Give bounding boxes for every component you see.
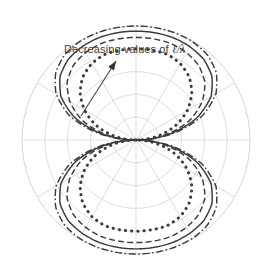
annotation-symbol: ℓ/λ [172,43,185,55]
annotation-prefix: Decreasing values of [64,43,172,55]
grid-spoke-30deg [136,83,235,140]
grid-spoke-120deg [79,41,136,140]
polar-plot-canvas [0,0,267,274]
grid-spoke-240deg [79,140,136,239]
annotation-label: Decreasing values of ℓ/λ [64,43,185,55]
grid-spoke-210deg [37,140,136,197]
arrow-head [108,61,116,70]
polar-radiation-pattern-figure: Decreasing values of ℓ/λ [0,0,267,274]
